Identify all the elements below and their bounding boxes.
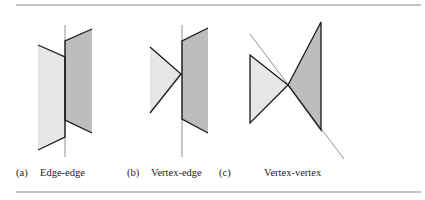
caption-b-tag: (b): [127, 168, 139, 179]
subfigure-a-edge-edge: [38, 25, 92, 157]
left-polygon: [38, 45, 65, 150]
subfigure-c-vertex-vertex: [250, 22, 344, 159]
subfigure-b-vertex-edge: [150, 25, 208, 157]
right-polygon: [182, 28, 208, 133]
left-triangle: [250, 55, 288, 123]
caption-a-tag: (a): [16, 168, 28, 179]
caption-c-tag: (c): [219, 168, 231, 179]
right-polygon: [65, 29, 92, 133]
caption-b-text: Vertex-edge: [151, 168, 202, 179]
caption-a-text: Edge-edge: [40, 168, 85, 179]
caption-c-text: Vertex-vertex: [264, 168, 321, 179]
